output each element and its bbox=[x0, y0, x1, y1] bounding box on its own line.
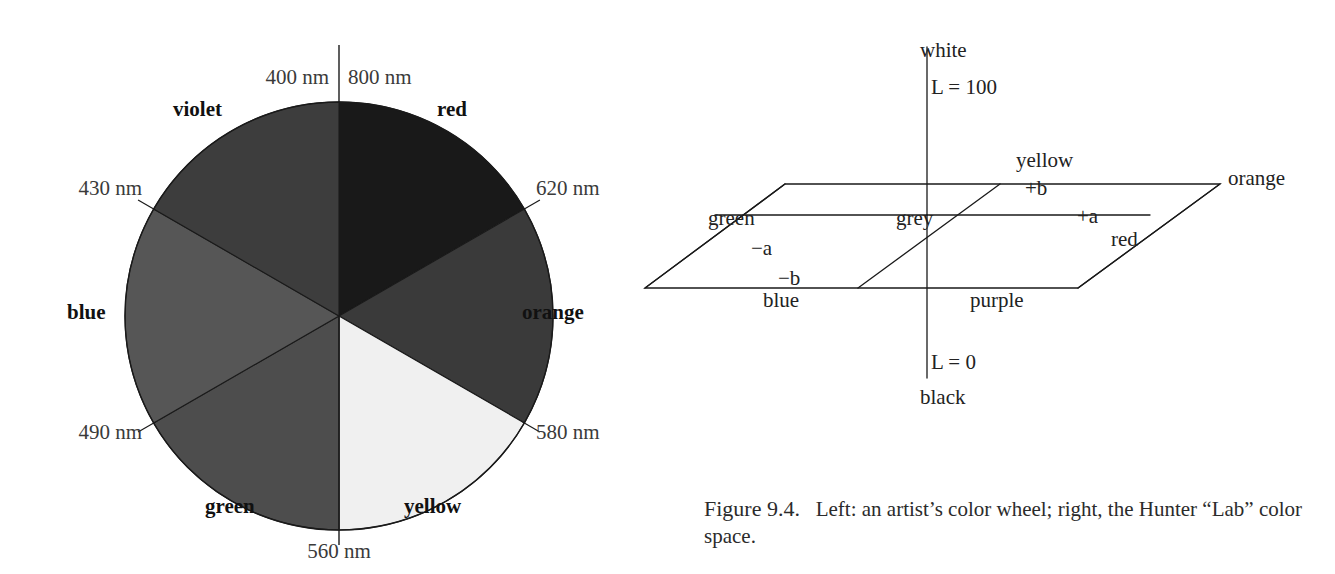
lab-label-black: black bbox=[920, 385, 965, 410]
lab-label-plus-a: +a bbox=[1077, 204, 1098, 229]
hue-label-violet: violet bbox=[173, 97, 222, 122]
lab-label-purple: purple bbox=[970, 288, 1024, 313]
hunter-lab-panel: whiteL = 100L = 0blackyellow+borangegree… bbox=[640, 0, 1335, 574]
wavelength-490: 490 nm bbox=[0, 420, 142, 445]
hue-label-green: green bbox=[205, 494, 255, 519]
figure-9-4: redorangeyellowgreenblueviolet800 nm400 … bbox=[0, 0, 1335, 574]
color-wheel-panel: redorangeyellowgreenblueviolet800 nm400 … bbox=[0, 0, 640, 574]
lab-label-green: green bbox=[708, 206, 755, 231]
wavelength-560: 560 nm bbox=[259, 539, 419, 564]
wavelength-580: 580 nm bbox=[536, 420, 600, 445]
b-axis bbox=[858, 184, 1000, 288]
wavelength-400: 400 nm bbox=[0, 65, 329, 90]
lab-label-l-0: L = 0 bbox=[931, 350, 976, 375]
lab-label-blue: blue bbox=[763, 288, 799, 313]
lab-label-orange: orange bbox=[1228, 166, 1285, 191]
plane-edge-right bbox=[1078, 184, 1220, 288]
hue-label-red: red bbox=[437, 97, 467, 122]
lab-label-minus-a: −a bbox=[751, 236, 772, 261]
wavelength-430: 430 nm bbox=[0, 176, 142, 201]
wheel-tick-300 bbox=[138, 200, 155, 210]
wavelength-800: 800 nm bbox=[348, 65, 412, 90]
lab-label-red: red bbox=[1111, 227, 1138, 252]
lab-label-l-100: L = 100 bbox=[931, 75, 997, 100]
hue-label-blue: blue bbox=[67, 300, 106, 325]
lab-label-plus-b: +b bbox=[1025, 176, 1047, 201]
lab-label-yellow: yellow bbox=[1016, 148, 1073, 173]
wavelength-620: 620 nm bbox=[536, 176, 600, 201]
figure-caption: Figure 9.4. Left: an artist’s color whee… bbox=[704, 495, 1328, 550]
lab-label-grey: grey bbox=[896, 206, 933, 231]
figure-number: Figure 9.4. bbox=[704, 496, 800, 521]
hue-label-orange: orange bbox=[522, 300, 584, 325]
lab-label-white: white bbox=[920, 38, 967, 63]
wheel-tick-60 bbox=[523, 200, 540, 210]
hue-label-yellow: yellow bbox=[404, 494, 461, 519]
